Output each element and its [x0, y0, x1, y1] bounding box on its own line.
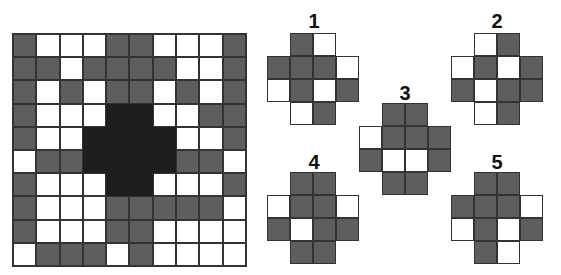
main-cell-1-5 — [129, 57, 152, 80]
main-cell-2-1 — [36, 80, 59, 103]
main-cell-1-9 — [223, 57, 246, 80]
option-1-grid[interactable] — [267, 33, 359, 125]
main-cell-8-3 — [83, 220, 106, 243]
main-cell-7-6 — [153, 196, 176, 219]
main-cell-5-0 — [13, 150, 36, 173]
main-cell-3-0 — [13, 104, 36, 127]
main-cell-0-1 — [36, 34, 59, 57]
option-4-cell-0-3 — [336, 172, 359, 195]
main-cell-4-8 — [199, 127, 222, 150]
main-cell-8-8 — [199, 220, 222, 243]
main-cell-6-6 — [153, 173, 176, 196]
main-cell-9-5 — [129, 243, 152, 266]
main-cell-5-6 — [153, 150, 176, 173]
option-4-cell-1-0 — [267, 195, 290, 218]
option-2-cell-1-0 — [451, 56, 474, 79]
option-4-cell-0-0 — [267, 172, 290, 195]
main-cell-5-3 — [83, 150, 106, 173]
option-3-grid[interactable] — [359, 103, 451, 195]
main-cell-3-2 — [60, 104, 83, 127]
option-1-cell-2-3 — [336, 79, 359, 102]
option-1-cell-3-2 — [313, 102, 336, 125]
option-5-cell-0-1 — [474, 172, 497, 195]
option-1-cell-3-0 — [267, 102, 290, 125]
main-cell-8-7 — [176, 220, 199, 243]
main-cell-4-3 — [83, 127, 106, 150]
main-cell-3-9 — [223, 104, 246, 127]
main-cell-5-1 — [36, 150, 59, 173]
option-1-cell-0-0 — [267, 33, 290, 56]
option-3-cell-3-1 — [382, 172, 405, 195]
main-cell-2-0 — [13, 80, 36, 103]
option-4-label: 4 — [299, 152, 329, 172]
main-cell-2-5 — [129, 80, 152, 103]
option-4-grid[interactable] — [267, 172, 359, 264]
option-3-cell-2-0 — [359, 149, 382, 172]
main-cell-6-1 — [36, 173, 59, 196]
main-cell-0-6 — [153, 34, 176, 57]
main-cell-8-2 — [60, 220, 83, 243]
main-cell-2-7 — [176, 80, 199, 103]
main-cell-3-6 — [153, 104, 176, 127]
main-cell-3-3 — [83, 104, 106, 127]
option-5-cell-0-0 — [451, 172, 474, 195]
main-cell-1-2 — [60, 57, 83, 80]
main-cell-8-6 — [153, 220, 176, 243]
option-3-cell-2-2 — [405, 149, 428, 172]
main-cell-7-9 — [223, 196, 246, 219]
main-cell-7-4 — [106, 196, 129, 219]
main-cell-4-5 — [129, 127, 152, 150]
option-3-cell-3-2 — [405, 172, 428, 195]
main-cell-0-4 — [106, 34, 129, 57]
option-2-cell-3-2 — [497, 102, 520, 125]
option-3-cell-1-1 — [382, 126, 405, 149]
option-4-cell-2-3 — [336, 218, 359, 241]
option-4-cell-2-2 — [313, 218, 336, 241]
option-5-label: 5 — [482, 152, 512, 172]
main-cell-3-5 — [129, 104, 152, 127]
option-2-cell-0-3 — [520, 33, 543, 56]
option-4-cell-1-2 — [313, 195, 336, 218]
option-2-cell-2-1 — [474, 79, 497, 102]
main-cell-6-3 — [83, 173, 106, 196]
main-cell-1-3 — [83, 57, 106, 80]
main-cell-1-0 — [13, 57, 36, 80]
option-5-cell-0-3 — [520, 172, 543, 195]
option-1-cell-1-1 — [290, 56, 313, 79]
main-cell-6-9 — [223, 173, 246, 196]
option-2-cell-0-1 — [474, 33, 497, 56]
option-5-cell-1-1 — [474, 195, 497, 218]
option-4-cell-1-3 — [336, 195, 359, 218]
option-4-cell-0-1 — [290, 172, 313, 195]
main-cell-4-2 — [60, 127, 83, 150]
option-1-label: 1 — [299, 11, 329, 31]
main-cell-9-2 — [60, 243, 83, 266]
option-5-cell-2-3 — [520, 218, 543, 241]
main-cell-5-4 — [106, 150, 129, 173]
option-2-cell-1-2 — [497, 56, 520, 79]
option-3-cell-1-0 — [359, 126, 382, 149]
main-cell-9-0 — [13, 243, 36, 266]
option-5-cell-1-0 — [451, 195, 474, 218]
option-3-cell-1-3 — [428, 126, 451, 149]
option-4-cell-2-0 — [267, 218, 290, 241]
option-5-grid[interactable] — [451, 172, 543, 264]
main-cell-9-8 — [199, 243, 222, 266]
option-5-cell-3-2 — [497, 241, 520, 264]
main-cell-8-5 — [129, 220, 152, 243]
option-3-cell-2-3 — [428, 149, 451, 172]
main-cell-6-5 — [129, 173, 152, 196]
main-cell-2-4 — [106, 80, 129, 103]
main-pattern-grid — [12, 33, 247, 267]
main-cell-7-8 — [199, 196, 222, 219]
option-2-label: 2 — [482, 11, 512, 31]
option-1-cell-3-3 — [336, 102, 359, 125]
option-2-cell-2-3 — [520, 79, 543, 102]
option-5-cell-2-1 — [474, 218, 497, 241]
option-2-grid[interactable] — [451, 33, 543, 125]
main-cell-7-0 — [13, 196, 36, 219]
main-cell-7-2 — [60, 196, 83, 219]
option-5-cell-3-0 — [451, 241, 474, 264]
main-cell-1-1 — [36, 57, 59, 80]
main-cell-7-1 — [36, 196, 59, 219]
